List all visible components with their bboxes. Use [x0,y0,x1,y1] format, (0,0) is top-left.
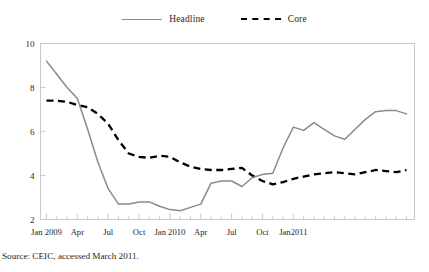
x-tick-label: Jul [227,227,238,237]
x-tick-label: Jan 2009 [31,227,62,237]
y-tick-label: 6 [30,127,35,137]
series-line-headline [47,61,407,211]
plot-frame [41,44,415,220]
x-tick-label: Oct [133,227,146,237]
y-axis: 108642 [26,39,46,225]
x-tick-label: Jul [103,227,114,237]
x-tick-label: Apr [71,227,85,237]
figure-inflation-chart: Headline Core 108642 Jan 2009AprJulOctJa… [0,0,429,272]
plot-area: 108642 Jan 2009AprJulOctJan 2010AprJulOc… [0,0,429,272]
x-axis-ticks [47,214,407,220]
x-tick-label: Apr [194,227,208,237]
y-tick-label: 2 [30,215,35,225]
x-tick-label: Oct [256,227,269,237]
source-note: Source: CEIC, accessed March 2011. [2,251,139,261]
y-tick-label: 8 [30,83,35,93]
x-tick-label: Jan2011 [279,227,307,237]
y-tick-label: 4 [30,171,35,181]
x-axis-labels: Jan 2009AprJulOctJan 2010AprJulOctJan201… [31,227,307,237]
chart-svg: 108642 Jan 2009AprJulOctJan 2010AprJulOc… [0,0,429,272]
series-line-core [47,101,407,185]
x-tick-label: Jan 2010 [155,227,186,237]
y-tick-label: 10 [26,39,36,49]
